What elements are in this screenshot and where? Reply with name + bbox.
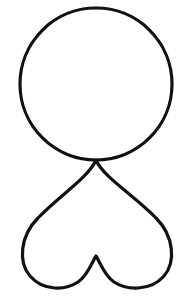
figure-drawing [0, 0, 187, 308]
circle-shape [20, 8, 172, 160]
inverted-heart-shape [22, 160, 171, 288]
figure-canvas [0, 0, 187, 308]
